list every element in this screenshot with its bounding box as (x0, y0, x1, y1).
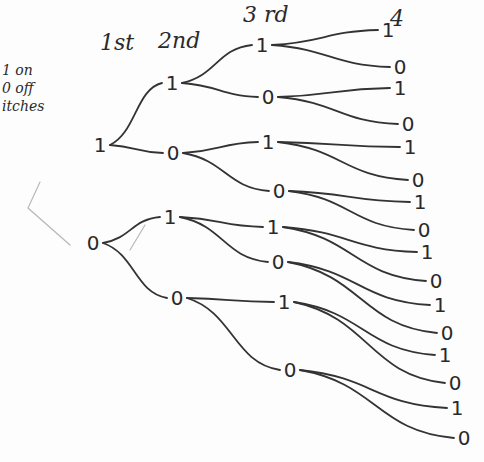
side-note-line: 0 off (2, 80, 36, 96)
tree-edge (182, 83, 258, 97)
tree-node-0: 0 (262, 85, 275, 109)
tree-node-0: 0 (418, 218, 431, 242)
tree-node-1: 1 (434, 293, 447, 317)
tree-node-1: 1 (164, 205, 177, 229)
tree-node-1: 1 (451, 396, 464, 420)
tree-node-1: 1 (394, 76, 407, 100)
tree-node-1: 1 (94, 133, 107, 157)
level-header: 1st (100, 30, 134, 55)
tree-node-0: 0 (272, 250, 285, 274)
tree-node-1: 1 (439, 343, 452, 367)
tree-node-0: 0 (441, 321, 454, 345)
tree-edge (289, 191, 410, 202)
tree-node-1: 1 (166, 71, 179, 95)
tree-edge (288, 262, 437, 333)
tree-node-0: 0 (167, 141, 180, 165)
tree-node-1: 1 (256, 33, 269, 57)
tree-edge (187, 298, 280, 370)
tree-edge (110, 83, 162, 145)
tree-edge (187, 298, 274, 302)
level-headers: 1st2nd3 rd4 (100, 2, 404, 55)
level-header: 2nd (157, 28, 200, 53)
level-header: 4 (389, 6, 404, 31)
side-note: 1 on0 offitches (2, 62, 44, 114)
tree-node-0: 0 (458, 426, 471, 450)
tree-node-1: 1 (404, 135, 417, 159)
tree-edge (294, 302, 445, 383)
tree-edge (183, 142, 258, 153)
tree-node-1: 1 (267, 215, 280, 239)
tree-edge (110, 145, 163, 153)
tree-edge (283, 227, 426, 281)
level-header: 3 rd (243, 2, 289, 27)
tree-node-0: 0 (171, 286, 184, 310)
tree-diagram: 101010101010101010101010101010 1st2nd3 r… (0, 0, 484, 462)
side-note-line: 1 on (2, 62, 33, 78)
tree-edge (103, 217, 160, 243)
tree-node-0: 0 (273, 179, 286, 203)
tree-edge (278, 97, 398, 124)
tree-edge (183, 153, 269, 191)
tree-node-1: 1 (262, 130, 275, 154)
root-bracket (28, 182, 70, 245)
tree-edge (180, 217, 263, 227)
tree-node-0: 0 (284, 358, 297, 382)
tree-edge (272, 30, 378, 45)
tree-node-0: 0 (412, 168, 425, 192)
side-note-line: itches (2, 98, 44, 114)
tree-node-1: 1 (414, 190, 427, 214)
tree-node-0: 0 (430, 269, 443, 293)
tree-node-1: 1 (421, 240, 434, 264)
tree-edge (103, 243, 167, 298)
tree-node-1: 1 (278, 290, 291, 314)
tree-node-0: 0 (449, 371, 462, 395)
tree-edge (272, 45, 390, 67)
tree-node-0: 0 (87, 231, 100, 255)
tree-nodes: 101010101010101010101010101010 (87, 18, 471, 450)
tree-diagram-canvas: 101010101010101010101010101010 1st2nd3 r… (0, 0, 484, 462)
tree-edge (278, 88, 390, 97)
tree-node-0: 0 (402, 112, 415, 136)
